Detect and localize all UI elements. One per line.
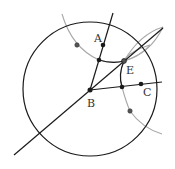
gray-point-left [75,43,79,47]
label-a: A [93,32,103,45]
intersection-point-ab [97,58,102,63]
gray-point-bottom [128,109,132,113]
label-e: E [126,64,134,77]
ray-ba [90,13,113,90]
label-b: B [87,97,95,110]
point-b [88,88,93,93]
label-c: C [143,86,151,99]
arc-segment-top [99,60,124,62]
intersection-point-bc [120,85,125,90]
geometry-diagram: A B C E [0,0,175,169]
arc-segment-right [120,61,124,87]
point-e [122,59,127,64]
